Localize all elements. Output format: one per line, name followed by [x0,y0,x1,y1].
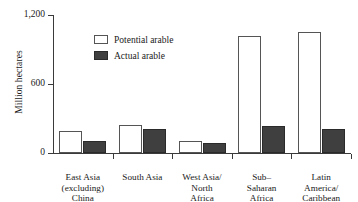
x-axis-category-label: Latin America/ Caribbean [285,172,357,202]
x-axis-tick [232,154,233,159]
y-axis-tick: 600 [48,84,53,85]
x-axis-tick [113,154,114,159]
y-axis-title: Million hectares [14,27,24,137]
y-axis-line [53,15,54,154]
bar-potential [179,141,202,153]
x-axis-tick [172,154,173,159]
y-axis-tick-label: 1,200 [24,9,45,19]
legend-swatch-actual-icon [94,51,108,60]
bar-actual [262,126,285,153]
chart-figure: Million hectares 06001,200 East Asia (ex… [0,0,358,202]
x-axis-line [53,153,351,154]
legend-swatch-potential-icon [94,35,108,44]
y-axis-tick: 1,200 [48,15,53,16]
legend-label-potential: Potential arable [114,35,173,45]
legend-item-potential: Potential arable [94,33,173,46]
bar-actual [203,143,226,153]
bar-potential [119,125,142,153]
legend-item-actual: Actual arable [94,49,173,62]
bar-actual [143,129,166,153]
bar-potential [298,32,321,153]
bar-potential [59,131,82,153]
bar-potential [238,36,261,153]
bar-actual [83,141,106,153]
chart-legend: Potential arable Actual arable [94,33,173,65]
legend-label-actual: Actual arable [114,51,165,61]
y-axis-tick: 0 [48,153,53,154]
y-axis-tick-label: 0 [40,147,45,157]
x-axis-tick [291,154,292,159]
x-axis-tick [351,154,352,159]
y-axis-tick-label: 600 [31,78,45,88]
bar-actual [322,129,345,153]
